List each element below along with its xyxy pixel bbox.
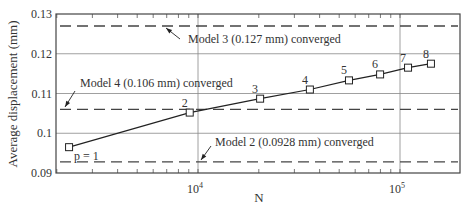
- data-point-label: 8: [423, 47, 429, 61]
- reference-line-label: Model 3 (0.127 mm) converged: [188, 32, 341, 46]
- reference-line-label: Model 4 (0.106 mm) converged: [80, 76, 233, 90]
- data-point-label: 6: [372, 57, 378, 71]
- data-point-label: 3: [252, 82, 258, 96]
- x-tick-label: 105: [389, 181, 405, 196]
- data-point-label: 5: [341, 63, 347, 77]
- chart: 0.090.10.110.120.13104105Model 3 (0.127 …: [0, 0, 472, 214]
- data-point-marker: [345, 77, 352, 84]
- y-tick-label: 0.1: [37, 126, 52, 140]
- data-point-marker: [306, 86, 313, 93]
- arrowhead-icon: [65, 101, 70, 107]
- data-point-label: 4: [302, 73, 308, 87]
- x-tick-label: 104: [187, 181, 203, 196]
- y-tick-label: 0.13: [31, 7, 52, 21]
- data-point-marker: [377, 71, 384, 78]
- data-point-marker: [257, 95, 264, 102]
- arrowhead-icon: [201, 154, 206, 160]
- y-tick-label: 0.12: [31, 47, 52, 61]
- y-tick-label: 0.11: [31, 87, 52, 101]
- y-tick-label: 0.09: [31, 166, 52, 180]
- data-point-label: p = 1: [74, 149, 99, 163]
- data-point-label: 7: [400, 51, 406, 65]
- x-axis-label: N: [254, 190, 264, 205]
- data-point-marker: [405, 64, 412, 71]
- labels: 0.090.10.110.120.13104105Model 3 (0.127 …: [31, 7, 429, 196]
- data-point-label: 2: [182, 96, 188, 110]
- data-point-marker: [66, 144, 73, 151]
- y-axis-label: Average displacement (mm): [5, 20, 20, 167]
- data-point-marker: [427, 60, 434, 67]
- data-point-marker: [186, 109, 193, 116]
- reference-line-label: Model 2 (0.0928 mm) converged: [215, 135, 374, 149]
